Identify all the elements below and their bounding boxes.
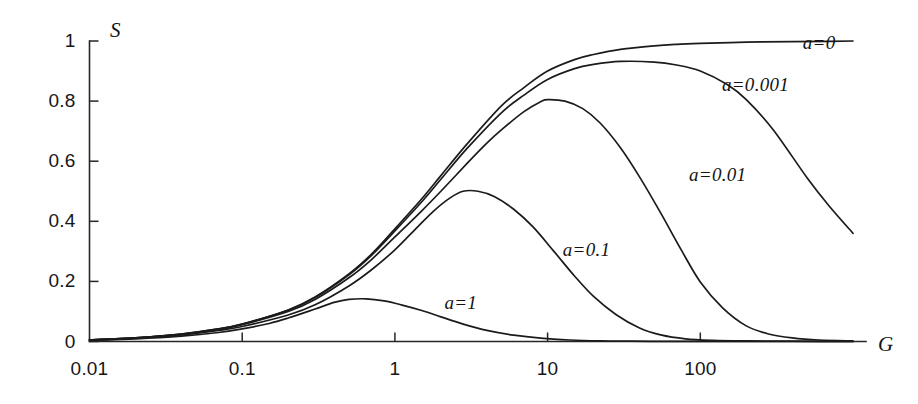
x-tick-label: 10 (537, 358, 559, 380)
x-axis-title: G (878, 332, 893, 357)
series-label-a-0-1: a=0.1 (563, 239, 611, 261)
chart-figure: 00.20.40.60.81 0.010.1110100 a=0a=0.001a… (0, 0, 918, 404)
series-label-a-0-01: a=0.01 (689, 164, 746, 186)
y-tick-label: 0.8 (0, 90, 76, 112)
y-tick-label: 1 (0, 30, 76, 52)
y-tick-label: 0.2 (0, 270, 76, 292)
x-tick-label: 100 (684, 358, 716, 380)
series-curve-a-0-1 (90, 190, 854, 341)
y-tick-label: 0 (0, 331, 76, 353)
y-axis-ticks (90, 41, 99, 342)
y-axis-title: S (110, 18, 121, 43)
x-tick-label: 0.01 (71, 358, 109, 380)
series-label-a-1: a=1 (444, 292, 477, 314)
series-label-a-0-001: a=0.001 (722, 74, 789, 96)
x-tick-label: 0.1 (229, 358, 256, 380)
x-tick-label: 1 (390, 358, 401, 380)
y-tick-label: 0.6 (0, 150, 76, 172)
series-label-a-0: a=0 (803, 32, 836, 54)
y-tick-label: 0.4 (0, 210, 76, 232)
x-axis-ticks (242, 333, 700, 342)
chart-plot-area (0, 0, 918, 404)
